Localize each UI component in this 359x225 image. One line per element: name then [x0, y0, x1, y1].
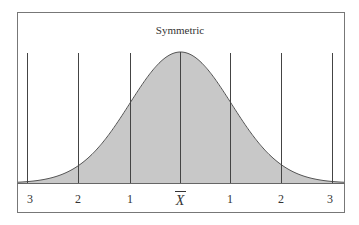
tick-label-minus-2: 2 [75, 192, 81, 206]
tick-label-plus-1: 1 [227, 192, 233, 206]
tick-label-plus-3: 3 [327, 192, 333, 206]
chart-title: Symmetric [156, 24, 204, 36]
normal-distribution-chart: Symmetric 3 2 1 X 1 2 3 [0, 0, 359, 225]
tick-label-minus-3: 3 [27, 192, 33, 206]
tick-label-plus-2: 2 [278, 192, 284, 206]
tick-label-mean: X [175, 193, 185, 208]
tick-label-minus-1: 1 [127, 192, 133, 206]
